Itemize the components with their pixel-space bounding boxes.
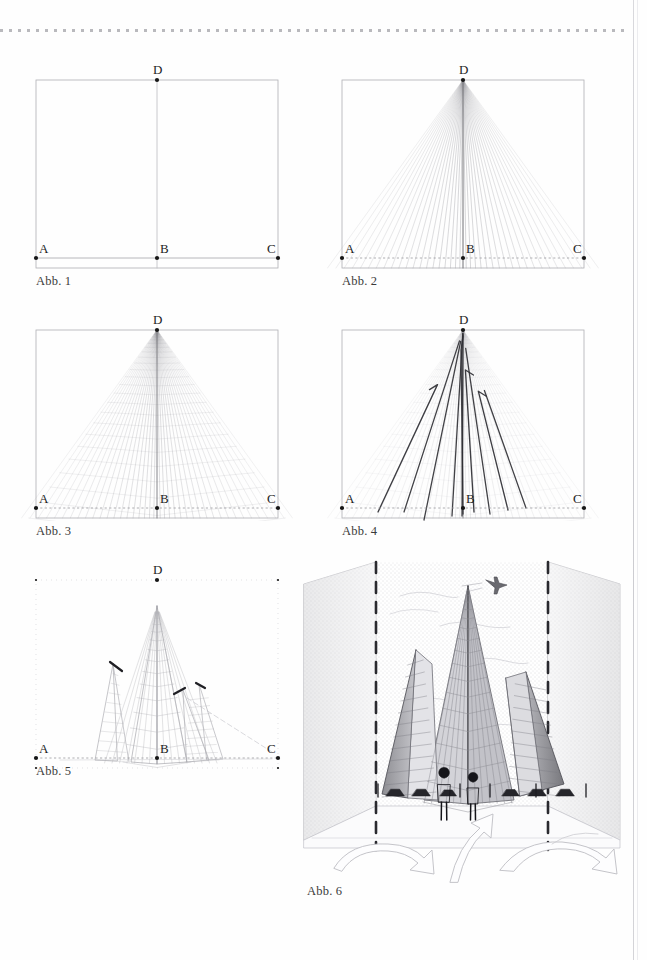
point-C-marker (276, 506, 280, 510)
point-B-marker (461, 256, 465, 260)
rule-dot (432, 29, 435, 32)
pedestrian-head (468, 772, 478, 782)
rule-dot (495, 29, 498, 32)
point-A-marker (340, 256, 344, 260)
facade-vertical (120, 612, 156, 763)
rule-dot (54, 29, 57, 32)
frame-corner-tick (277, 767, 279, 769)
construction-ray (187, 698, 272, 752)
tower-wing-right (183, 690, 209, 762)
point-C-marker (582, 256, 586, 260)
perspective-ray (344, 80, 463, 268)
rule-dot (0, 29, 3, 32)
perspective-ray (463, 80, 558, 268)
page-canvas: ABCD Abb. 1 ABCD Abb. 2 ABCD Abb. 3 ABCD… (0, 0, 647, 960)
figure-2-caption: Abb. 2 (342, 274, 377, 289)
rule-dot (441, 29, 444, 32)
rule-dot (351, 29, 354, 32)
perspective-ray (463, 80, 574, 268)
rule-dot (333, 29, 336, 32)
figure-6-caption: Abb. 6 (307, 884, 342, 899)
side-wall-left-grain (304, 562, 376, 840)
perspective-ray (157, 330, 284, 518)
perspective-cross-line (335, 518, 592, 521)
frame-corner-tick (35, 579, 37, 581)
point-D-marker (461, 328, 465, 332)
rule-dot (549, 29, 552, 32)
rule-dot (162, 29, 165, 32)
perspective-ray (427, 80, 463, 268)
rule-dot (468, 29, 471, 32)
point-C-label: C (573, 491, 582, 506)
wing-grid-left (105, 712, 122, 714)
top-dotted-rule (0, 29, 639, 34)
rule-dot (315, 29, 318, 32)
point-A-label: A (39, 491, 49, 506)
facade-vertical (105, 612, 155, 763)
perspective-ray (433, 330, 463, 518)
perspective-ray (352, 330, 463, 518)
rule-dot (9, 29, 12, 32)
point-D-label: D (153, 312, 162, 327)
rule-dot (486, 29, 489, 32)
rule-dot (171, 29, 174, 32)
rule-dot (405, 29, 408, 32)
figure-5-caption: Abb. 5 (36, 764, 71, 779)
rule-dot (36, 29, 39, 32)
perspective-ray (463, 330, 590, 518)
figure-3-drawing: ABCD (22, 312, 293, 521)
perspective-ray (157, 330, 187, 518)
rule-dot (306, 29, 309, 32)
point-A-label: A (345, 491, 355, 506)
facade-vertical (127, 612, 156, 763)
perspective-ray (463, 80, 590, 268)
point-C-marker (276, 256, 280, 260)
perspective-ray (336, 80, 463, 268)
perspective-ray (127, 330, 157, 518)
perspective-ray (100, 330, 157, 518)
rule-dot (63, 29, 66, 32)
rule-dot (567, 29, 570, 32)
rule-dot (423, 29, 426, 32)
perspective-ray (344, 330, 463, 518)
building-edge-bold (484, 391, 526, 508)
rule-dot (243, 29, 246, 32)
figure-1-drawing: ABCD (34, 62, 280, 268)
rule-dot (450, 29, 453, 32)
rule-dot (540, 29, 543, 32)
rule-dot (90, 29, 93, 32)
rule-dot (81, 29, 84, 32)
facade-vertical (150, 612, 157, 763)
point-C-marker (276, 756, 280, 760)
perspective-ray (433, 80, 463, 268)
figure-3-caption: Abb. 3 (36, 524, 71, 539)
rule-dot (234, 29, 237, 32)
building-edge-bold (404, 341, 459, 512)
point-D-label: D (459, 312, 468, 327)
rule-dot (288, 29, 291, 32)
perspective-ray (463, 330, 582, 518)
perspective-cross-line (29, 518, 286, 521)
rule-dot (558, 29, 561, 32)
perspective-ray (93, 330, 157, 518)
figure-2-drawing: ABCD (328, 62, 599, 268)
perspective-ray (463, 80, 582, 268)
wing-grid-left (101, 731, 124, 733)
rule-dot (612, 29, 615, 32)
facade-vertical (135, 612, 157, 763)
rule-dot (99, 29, 102, 32)
rule-dot (504, 29, 507, 32)
rule-dot (108, 29, 111, 32)
rule-dot (522, 29, 525, 32)
point-B-label: B (160, 241, 169, 256)
wing-grid-left (95, 760, 127, 762)
figure-2: ABCD (326, 56, 626, 271)
perspective-ray (157, 330, 268, 518)
rule-dot (117, 29, 120, 32)
perspective-ray (463, 80, 493, 268)
perspective-ray (463, 80, 499, 268)
point-D-label: D (153, 562, 162, 577)
rule-dot (414, 29, 417, 32)
rule-dot (207, 29, 210, 32)
point-B-label: B (160, 741, 169, 756)
